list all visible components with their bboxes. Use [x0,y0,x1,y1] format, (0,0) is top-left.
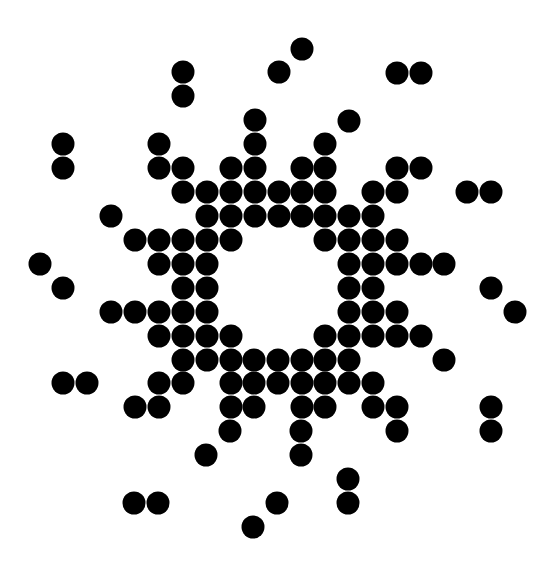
dot [220,349,243,372]
dot [362,325,385,348]
dot [362,372,385,395]
dot [172,61,195,84]
dot [244,109,267,132]
dot [337,468,360,491]
dot [220,396,243,419]
dot [123,492,146,515]
dot [291,181,314,204]
dot [290,444,313,467]
dot [76,372,99,395]
dot [338,205,361,228]
dot [267,349,290,372]
dot [362,253,385,276]
dot [124,301,147,324]
dot [243,396,266,419]
dot [480,396,503,419]
dot [338,372,361,395]
dot [52,133,75,156]
dot [291,372,314,395]
dot [148,133,171,156]
dot [148,372,171,395]
dot [386,181,409,204]
dot [314,181,337,204]
dot [124,396,147,419]
dot [410,253,433,276]
dot [243,372,266,395]
dot [386,301,409,324]
dot [386,325,409,348]
dot [338,253,361,276]
dot [290,420,313,443]
dot [456,181,479,204]
dot [244,205,267,228]
dot [386,229,409,252]
dot [148,253,171,276]
dot [314,133,337,156]
dot [220,157,243,180]
dot [338,349,361,372]
dot [52,372,75,395]
dot [362,205,385,228]
dot [196,205,219,228]
dot [172,181,195,204]
dot [195,444,218,467]
dot [433,253,456,276]
dot [172,277,195,300]
dot [291,349,314,372]
dot [172,301,195,324]
dot [291,38,314,61]
dot [172,229,195,252]
dot [386,253,409,276]
dot [172,157,195,180]
dot [291,157,314,180]
dot [291,396,314,419]
dot [338,277,361,300]
dot [244,181,267,204]
dot [314,229,337,252]
dot-pattern-canvas [0,0,554,561]
dot [480,420,503,443]
dot [244,133,267,156]
dot [337,492,360,515]
dot [172,372,195,395]
dot [52,277,75,300]
dot [362,396,385,419]
dot [338,325,361,348]
dot [362,301,385,324]
dot [386,396,409,419]
dot [338,229,361,252]
dot [220,205,243,228]
dot [386,420,409,443]
dot [196,181,219,204]
background [0,0,554,561]
dot [314,349,337,372]
dot [172,253,195,276]
dot [244,157,267,180]
dot [267,372,290,395]
dot [268,61,291,84]
dot [410,62,433,85]
dot [268,181,291,204]
dot [196,277,219,300]
dot [124,229,147,252]
dot [219,420,242,443]
dot [172,349,195,372]
dot [266,492,289,515]
dot [291,205,314,228]
dot [196,229,219,252]
dot [100,205,123,228]
dot [172,325,195,348]
dot [148,396,171,419]
dot [386,157,409,180]
dot [504,301,527,324]
dot [362,277,385,300]
dot [196,349,219,372]
dot [196,301,219,324]
dot [29,253,52,276]
dot [362,181,385,204]
dot [52,157,75,180]
dot [172,85,195,108]
dot [314,372,337,395]
dot [314,157,337,180]
dot [314,205,337,228]
